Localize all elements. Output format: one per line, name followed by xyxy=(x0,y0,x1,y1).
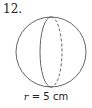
great-circle-hidden xyxy=(51,17,62,87)
radius-label: r = 5 cm xyxy=(0,91,92,102)
sphere-outline xyxy=(16,17,86,87)
radius-value: = 5 cm xyxy=(29,91,69,102)
great-circle-front xyxy=(40,17,51,87)
